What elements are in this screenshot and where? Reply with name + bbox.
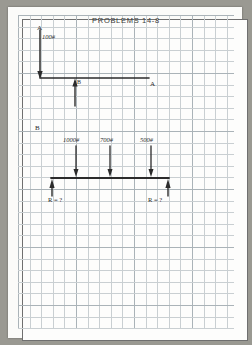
scanned-worksheet-page: PROBLEMS 14-8 A 100# B A B 1000# 700# 50… bbox=[0, 0, 252, 345]
reaction-arrowhead-right bbox=[165, 179, 170, 188]
load-arrowhead-3 bbox=[149, 169, 154, 177]
label-load-3: 500# bbox=[140, 136, 153, 143]
label-point-b-bottom: B bbox=[35, 124, 40, 132]
label-point-b-top: B bbox=[77, 79, 81, 85]
label-reaction-right: R = ? bbox=[148, 196, 162, 203]
load-arrowhead-2 bbox=[108, 169, 113, 177]
figure-simple-beam bbox=[49, 146, 170, 196]
label-load-2: 700# bbox=[100, 136, 113, 143]
load-arrowhead-1 bbox=[74, 169, 79, 177]
ink-drawing-layer bbox=[0, 0, 252, 345]
label-point-a-top: A bbox=[37, 24, 42, 32]
figure-bent-member bbox=[37, 30, 149, 106]
label-reaction-left: R = ? bbox=[48, 196, 62, 203]
label-load-100: 100# bbox=[42, 33, 55, 40]
label-load-1: 1000# bbox=[63, 136, 79, 143]
reaction-arrowhead-left bbox=[49, 179, 54, 188]
label-point-a-right: A bbox=[150, 80, 155, 88]
